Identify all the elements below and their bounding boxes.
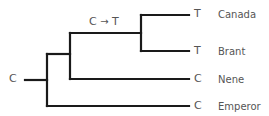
arrow-right-icon: → <box>100 16 108 27</box>
state-nene: C <box>194 73 202 85</box>
root-state-label: C <box>9 73 17 85</box>
state-brant: T <box>194 45 201 57</box>
taxon-canada: Canada <box>218 9 256 21</box>
mutation-to: T <box>112 15 119 28</box>
taxon-emperor: Emperor <box>218 101 261 113</box>
state-canada: T <box>194 8 201 20</box>
mutation-label: C → T <box>89 16 119 28</box>
taxon-brant: Brant <box>218 46 245 58</box>
taxon-nene: Nene <box>218 74 244 86</box>
mutation-from: C <box>89 15 97 28</box>
state-emperor: C <box>194 100 202 112</box>
